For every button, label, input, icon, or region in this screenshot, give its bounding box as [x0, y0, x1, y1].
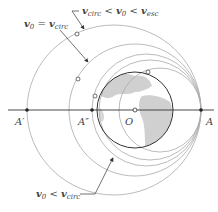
point-A: [199, 108, 203, 112]
annotation-elliptical: vcirc < v0 < vesc: [82, 5, 159, 18]
label-A-prime: A′: [14, 116, 25, 127]
label-A-double-prime: A″: [77, 116, 89, 127]
annotation-suborbital: v0 < vcirc: [36, 188, 80, 201]
point-A-prime: [25, 108, 29, 112]
orbit-diagram: A′ A″ O A v0 = vcirc vcirc < v0 < vesc v…: [0, 0, 218, 212]
point-O: [133, 108, 137, 112]
label-A: A: [205, 116, 213, 127]
annotation-circular: v0 = vcirc: [24, 18, 68, 31]
point-A-double-prime: [90, 108, 94, 112]
label-O: O: [125, 116, 133, 127]
